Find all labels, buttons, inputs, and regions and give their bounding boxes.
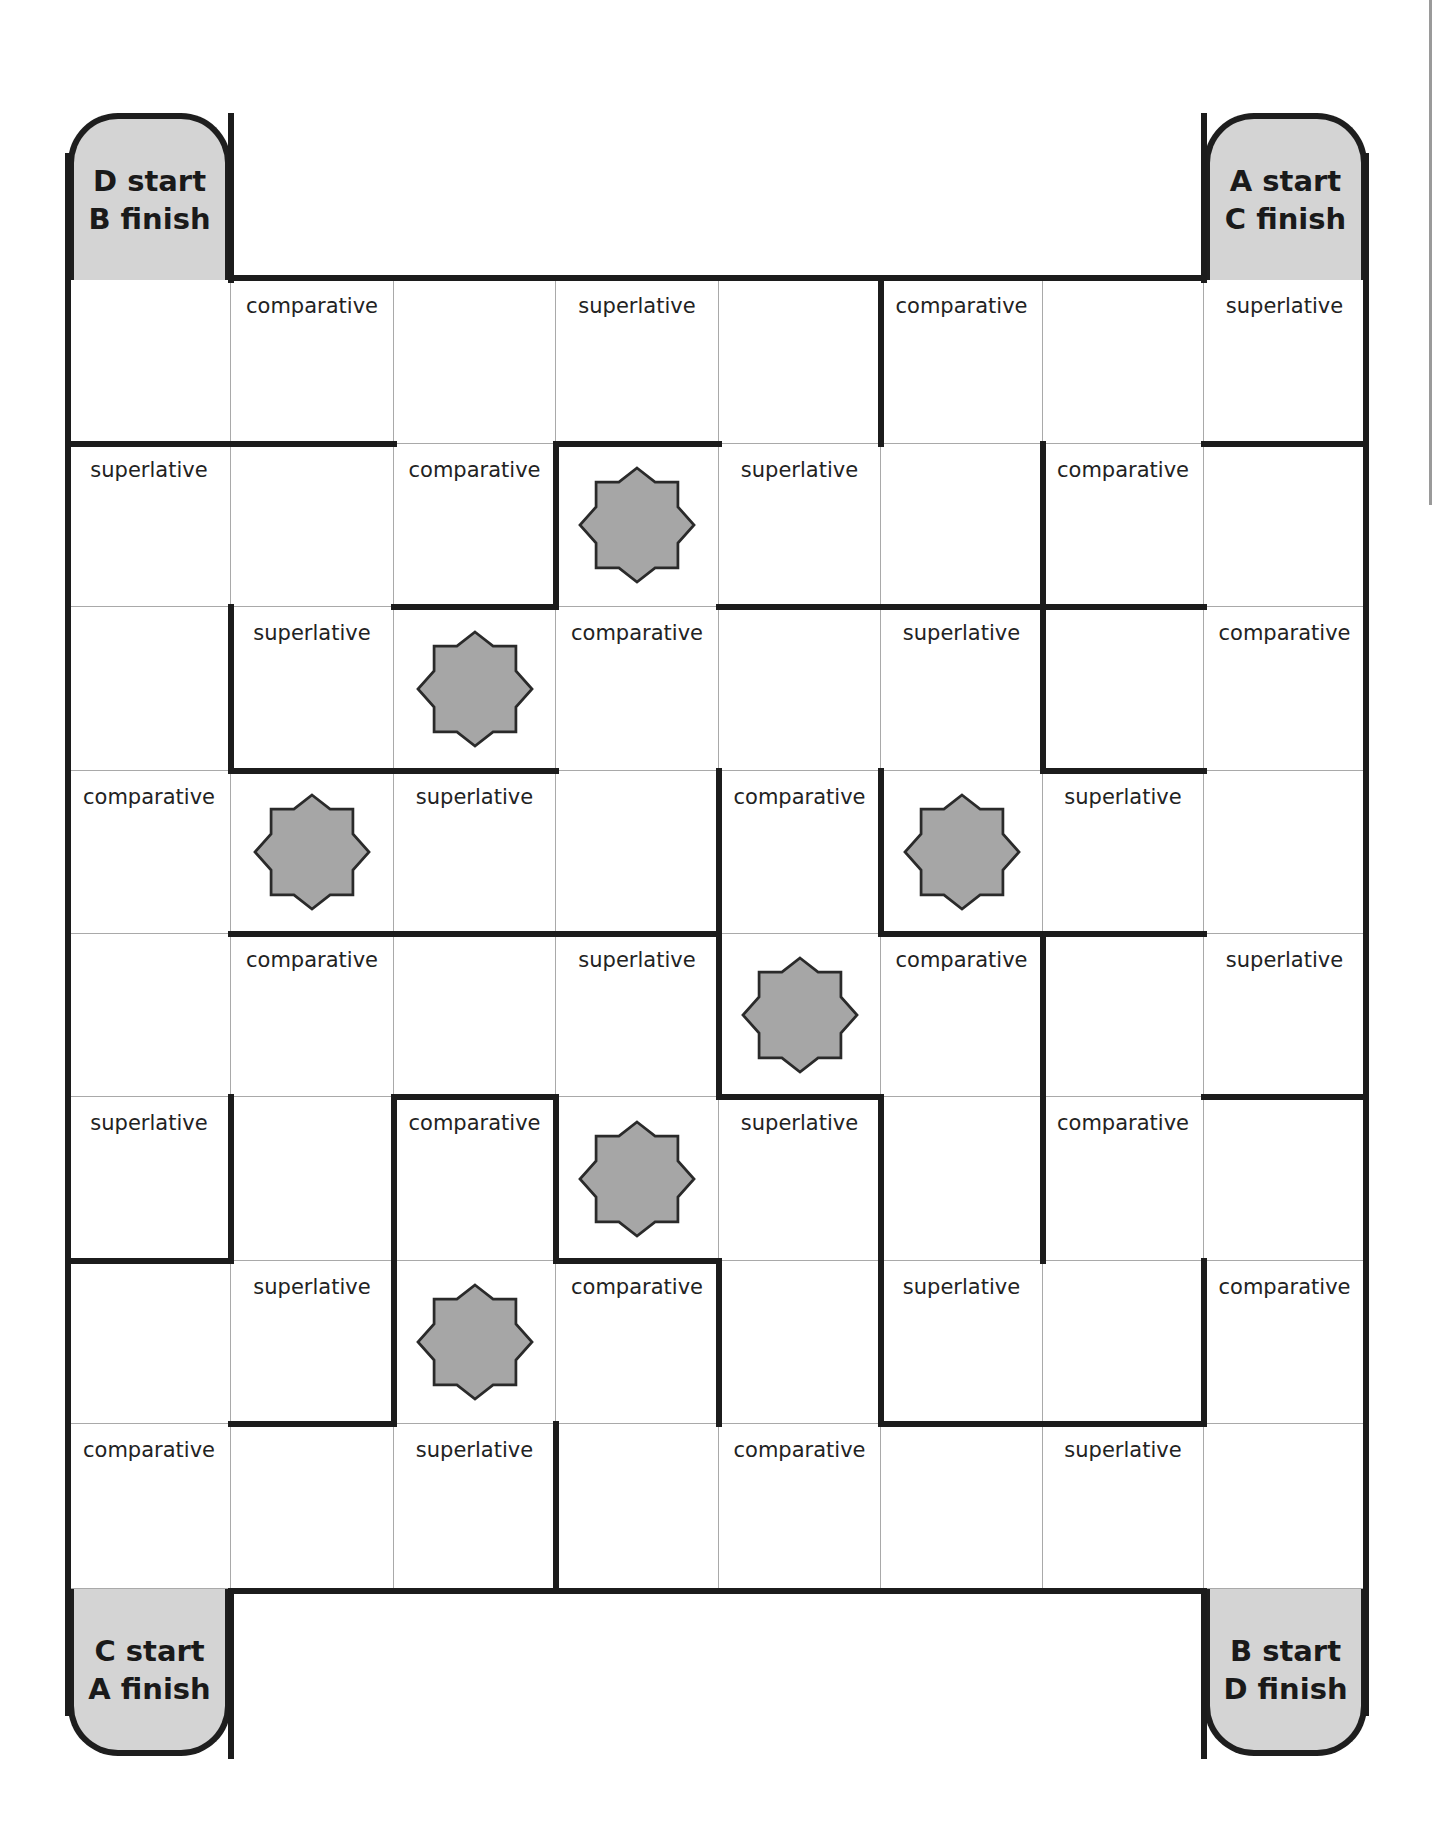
cell-label: comparative bbox=[1204, 621, 1365, 645]
maze-wall-vertical bbox=[878, 277, 884, 447]
board-cell[interactable]: comparative bbox=[1204, 1261, 1366, 1424]
board-cell[interactable]: superlative bbox=[719, 444, 881, 607]
board-cell[interactable]: comparative bbox=[719, 771, 881, 934]
cell-label: comparative bbox=[231, 294, 393, 318]
cell-label: comparative bbox=[231, 948, 393, 972]
board-cell[interactable]: superlative bbox=[719, 1097, 881, 1261]
board-cell[interactable] bbox=[394, 280, 556, 444]
board-cell[interactable]: superlative bbox=[231, 1261, 394, 1424]
maze-wall-vertical bbox=[878, 768, 884, 937]
board-cell[interactable] bbox=[556, 444, 719, 607]
cell-label: superlative bbox=[1204, 294, 1365, 318]
cell-label: superlative bbox=[556, 948, 718, 972]
board-cell[interactable] bbox=[1043, 280, 1204, 444]
board-cell[interactable]: superlative bbox=[1204, 934, 1366, 1097]
outer-wall-left bbox=[65, 153, 71, 1716]
corner-label-line2: C finish bbox=[1225, 200, 1346, 238]
board-cell[interactable] bbox=[231, 1424, 394, 1589]
maze-wall-vertical bbox=[553, 1421, 559, 1592]
board-cell[interactable] bbox=[1204, 1424, 1366, 1589]
board-cell[interactable]: comparative bbox=[1043, 444, 1204, 607]
board-cell[interactable]: superlative bbox=[394, 771, 556, 934]
corner-top-left[interactable]: D start B finish bbox=[68, 113, 231, 280]
board-cell[interactable]: comparative bbox=[68, 1424, 231, 1589]
board-cell[interactable]: superlative bbox=[556, 280, 719, 444]
board-cell[interactable]: comparative bbox=[1043, 1097, 1204, 1261]
board-cell[interactable]: comparative bbox=[556, 1261, 719, 1424]
board-cell[interactable] bbox=[68, 280, 231, 444]
board-cell[interactable]: comparative bbox=[881, 280, 1043, 444]
star-icon bbox=[250, 790, 374, 914]
board-cell[interactable]: superlative bbox=[1204, 280, 1366, 444]
maze-wall-horizontal bbox=[228, 1421, 397, 1427]
maze-wall-vertical bbox=[716, 768, 722, 1100]
board-cell[interactable]: comparative bbox=[68, 771, 231, 934]
board-cell[interactable] bbox=[1043, 934, 1204, 1097]
board-cell[interactable] bbox=[68, 607, 231, 771]
board-cell[interactable]: superlative bbox=[556, 934, 719, 1097]
maze-wall-horizontal bbox=[1040, 768, 1207, 774]
board-cell[interactable] bbox=[556, 1424, 719, 1589]
board-cell[interactable] bbox=[1204, 444, 1366, 607]
corner-top-right[interactable]: A start C finish bbox=[1204, 113, 1367, 280]
board-cell[interactable] bbox=[1204, 771, 1366, 934]
corner-label-line1: D start bbox=[93, 162, 206, 200]
board-cell[interactable] bbox=[1043, 607, 1204, 771]
board-cell[interactable]: comparative bbox=[719, 1424, 881, 1589]
board-cell[interactable] bbox=[231, 1097, 394, 1261]
board-cell[interactable] bbox=[881, 1097, 1043, 1261]
corner-bottom-right[interactable]: B start D finish bbox=[1204, 1589, 1367, 1756]
board-cell[interactable]: comparative bbox=[394, 1097, 556, 1261]
corner-bottom-left[interactable]: C start A finish bbox=[68, 1589, 231, 1756]
star-icon bbox=[738, 953, 862, 1077]
board-cell[interactable]: comparative bbox=[881, 934, 1043, 1097]
board-cell[interactable] bbox=[719, 1261, 881, 1424]
board-cell[interactable]: superlative bbox=[231, 607, 394, 771]
board-cell[interactable] bbox=[68, 1261, 231, 1424]
board-cell[interactable]: superlative bbox=[68, 1097, 231, 1261]
board-cell[interactable]: superlative bbox=[68, 444, 231, 607]
board-cell[interactable]: superlative bbox=[881, 607, 1043, 771]
maze-wall-horizontal bbox=[228, 931, 722, 937]
board-cell[interactable] bbox=[394, 607, 556, 771]
board-cell[interactable] bbox=[231, 444, 394, 607]
cell-label: superlative bbox=[1204, 948, 1365, 972]
board-cell[interactable] bbox=[556, 771, 719, 934]
board-cell[interactable] bbox=[1204, 1097, 1366, 1261]
maze-board: D start B finish A start C finish C star… bbox=[0, 0, 1432, 1842]
corner-label-line1: C start bbox=[94, 1632, 204, 1670]
board-cell[interactable] bbox=[881, 444, 1043, 607]
board-cell[interactable] bbox=[719, 607, 881, 771]
cell-label: superlative bbox=[719, 1111, 880, 1135]
board-cell[interactable] bbox=[719, 934, 881, 1097]
star-icon bbox=[575, 463, 699, 587]
board-cell[interactable]: superlative bbox=[1043, 1424, 1204, 1589]
board-cell[interactable] bbox=[1043, 1261, 1204, 1424]
board-cell[interactable] bbox=[394, 1261, 556, 1424]
board-cell[interactable]: superlative bbox=[1043, 771, 1204, 934]
board-cell[interactable]: comparative bbox=[394, 444, 556, 607]
maze-wall-vertical bbox=[716, 1258, 722, 1427]
board-cell[interactable] bbox=[68, 934, 231, 1097]
board-cell[interactable] bbox=[719, 280, 881, 444]
board-cell[interactable] bbox=[881, 771, 1043, 934]
board-cell[interactable] bbox=[231, 771, 394, 934]
star-icon bbox=[575, 1117, 699, 1241]
corner-wall bbox=[228, 1589, 234, 1759]
cell-label: comparative bbox=[881, 948, 1042, 972]
cell-label: superlative bbox=[881, 621, 1042, 645]
cell-label: comparative bbox=[68, 785, 230, 809]
board-cell[interactable]: superlative bbox=[881, 1261, 1043, 1424]
maze-wall-vertical bbox=[391, 1094, 397, 1427]
corner-label-line2: B finish bbox=[88, 200, 210, 238]
board-cell[interactable] bbox=[556, 1097, 719, 1261]
board-cell[interactable] bbox=[394, 934, 556, 1097]
board-cell[interactable]: comparative bbox=[1204, 607, 1366, 771]
board-cell[interactable]: comparative bbox=[231, 934, 394, 1097]
board-cell[interactable]: comparative bbox=[231, 280, 394, 444]
board-cell[interactable]: superlative bbox=[394, 1424, 556, 1589]
maze-wall-vertical bbox=[1201, 1258, 1207, 1427]
maze-wall-vertical bbox=[1040, 931, 1046, 1264]
board-cell[interactable] bbox=[881, 1424, 1043, 1589]
board-cell[interactable]: comparative bbox=[556, 607, 719, 771]
